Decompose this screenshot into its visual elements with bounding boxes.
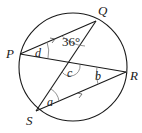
angle-label-c: c [67, 66, 73, 80]
circle-diagram: P Q R S d 36° c b a [0, 0, 142, 133]
angle-label-b: b [95, 69, 101, 83]
label-r: R [129, 68, 138, 83]
label-p: P [5, 46, 14, 61]
circle [19, 13, 127, 121]
angle-label-a: a [47, 95, 53, 109]
angle-label-36: 36° [62, 34, 80, 49]
label-s: S [26, 113, 33, 128]
label-q: Q [98, 3, 108, 18]
angle-arc-d [47, 42, 49, 58]
angle-label-d: d [35, 46, 42, 60]
parallel-arrow-icon [77, 93, 82, 98]
